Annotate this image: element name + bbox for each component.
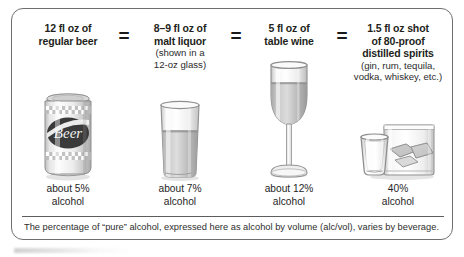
alcohol-percent-malt-liquor: about 7% alcohol: [158, 183, 201, 211]
heading-line-3: distilled spirits: [362, 47, 434, 60]
percent-unit: alcohol: [382, 196, 414, 208]
percent-value: 40%: [382, 183, 414, 195]
heading-line-1: 5 fl oz of: [264, 22, 313, 35]
heading-line-2: malt liquor: [154, 35, 206, 48]
heading-line-1: 1.5 fl oz shot: [362, 22, 434, 35]
percent-value: about 5%: [46, 183, 89, 195]
beverage-columns: 12 fl oz of regular beer: [12, 13, 454, 211]
subheading-line-2: vodka, whiskey, etc.): [354, 71, 442, 83]
column-distilled-spirits: 1.5 fl oz shot of 80-proof distilled spi…: [342, 13, 454, 211]
percent-unit: alcohol: [265, 196, 314, 208]
subheading-malt-liquor: (shown in a 12-oz glass): [154, 47, 206, 70]
percent-value: about 7%: [158, 183, 201, 195]
subheading-line-1: (shown in a: [154, 47, 206, 59]
alcohol-percent-table-wine: about 12% alcohol: [265, 183, 314, 211]
wine-glass-illustration: [236, 47, 342, 183]
subheading-line-2: 12-oz glass): [154, 59, 206, 71]
column-malt-liquor: 8–9 fl oz of malt liquor (shown in a 12-…: [124, 13, 236, 211]
footnote-text: The percentage of “pure” alcohol, expres…: [24, 221, 444, 233]
footnote-divider: [22, 216, 444, 217]
heading-line-2: of 80-proof: [362, 35, 434, 48]
heading-table-wine: 5 fl oz of table wine: [264, 13, 313, 47]
alcohol-percent-distilled-spirits: 40% alcohol: [382, 183, 414, 211]
heading-malt-liquor: 8–9 fl oz of malt liquor: [154, 13, 206, 47]
column-regular-beer: 12 fl oz of regular beer: [12, 13, 124, 211]
heading-line-1: 8–9 fl oz of: [154, 22, 206, 35]
shot-and-rocks-glass-illustration: [342, 83, 454, 183]
malt-liquor-glass-illustration: [124, 70, 236, 183]
standard-drink-equivalents-card: 12 fl oz of regular beer: [11, 8, 453, 240]
alcohol-percent-regular-beer: about 5% alcohol: [46, 183, 89, 211]
subheading-line-1: (gin, rum, tequila,: [354, 60, 442, 72]
heading-distilled-spirits: 1.5 fl oz shot of 80-proof distilled spi…: [362, 13, 434, 60]
scan-artifact: [14, 248, 134, 253]
percent-value: about 12%: [265, 183, 314, 195]
heading-line-2: regular beer: [39, 35, 98, 48]
heading-regular-beer: 12 fl oz of regular beer: [39, 13, 98, 47]
subheading-distilled-spirits: (gin, rum, tequila, vodka, whiskey, etc.…: [354, 60, 442, 83]
percent-unit: alcohol: [158, 196, 201, 208]
heading-line-1: 12 fl oz of: [39, 22, 98, 35]
heading-line-2: table wine: [264, 35, 313, 48]
beer-can-illustration: Beer: [12, 47, 124, 183]
percent-unit: alcohol: [46, 196, 89, 208]
column-table-wine: 5 fl oz of table wine: [236, 13, 342, 211]
